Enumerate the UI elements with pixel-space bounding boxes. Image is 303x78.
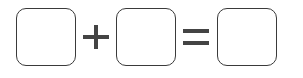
result-blank-box[interactable]: [217, 8, 277, 66]
first-blank-box[interactable]: [16, 8, 76, 66]
second-blank-box[interactable]: [116, 8, 176, 66]
